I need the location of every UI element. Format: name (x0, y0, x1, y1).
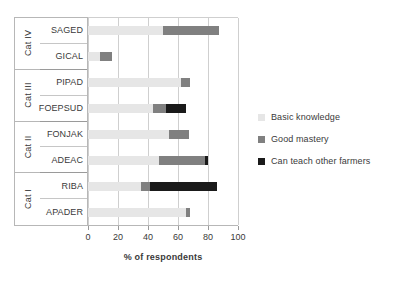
legend-item: Basic knowledge (258, 112, 398, 122)
x-axis-tick (148, 226, 149, 230)
bar-segment[interactable] (186, 208, 191, 217)
category-group-cell: Cat III (15, 70, 40, 122)
x-axis-tick-label: 40 (143, 232, 153, 242)
bar-segment[interactable] (163, 26, 219, 35)
x-axis-tick (238, 226, 239, 230)
bar-row (88, 173, 238, 199)
bar-segment[interactable] (150, 182, 218, 191)
bar-segment[interactable] (88, 156, 159, 165)
bar-segment[interactable] (88, 52, 100, 61)
legend-swatch-icon (258, 114, 265, 121)
bar-segment[interactable] (100, 52, 112, 61)
bar-row (88, 70, 238, 96)
axis-tick-label: PIPAD (40, 70, 87, 96)
bar-segment[interactable] (205, 156, 208, 165)
stacked-bar[interactable] (88, 78, 190, 87)
stacked-bar[interactable] (88, 52, 112, 61)
legend-item: Can teach other farmers (258, 156, 398, 166)
legend-label: Can teach other farmers (271, 156, 370, 166)
plot-area (88, 17, 238, 226)
x-axis-tick-label: 80 (203, 232, 213, 242)
stacked-bar[interactable] (88, 26, 219, 35)
category-group-label: Cat III (23, 82, 33, 107)
bar-segment[interactable] (166, 104, 186, 113)
stacked-bar[interactable] (88, 208, 190, 217)
bar-segment[interactable] (88, 78, 181, 87)
bar-chart: Cat IV Cat III Cat II Cat I SAGED GICAL … (0, 0, 403, 282)
legend-item: Good mastery (258, 134, 398, 144)
bar-row (88, 96, 238, 122)
x-axis-title: % of respondents (88, 252, 238, 262)
bar-segment[interactable] (88, 130, 169, 139)
axis-tick-label: RIBA (40, 173, 87, 199)
axis-tick-label: FONJAK (40, 122, 87, 148)
category-group-cell: Cat IV (15, 18, 40, 70)
axis-tick-label: GICAL (40, 44, 87, 70)
bar-segment[interactable] (159, 156, 206, 165)
bar-segment[interactable] (141, 182, 150, 191)
category-group-cell: Cat I (15, 173, 40, 225)
bar-segment[interactable] (88, 104, 153, 113)
stacked-bar[interactable] (88, 104, 186, 113)
category-group-label: Cat IV (23, 30, 33, 56)
x-axis-tick-label: 0 (85, 232, 90, 242)
axis-tick-label: FOEPSUD (40, 96, 87, 122)
bar-segment[interactable] (88, 208, 186, 217)
legend-swatch-icon (258, 158, 265, 165)
x-axis-tick (178, 226, 179, 230)
category-axis: Cat IV Cat III Cat II Cat I (14, 17, 40, 226)
bar-segment[interactable] (169, 130, 189, 139)
bar-segment[interactable] (181, 78, 190, 87)
stacked-bar[interactable] (88, 156, 208, 165)
series-name-axis: SAGED GICAL PIPAD FOEPSUD FONJAK ADEAC R… (40, 17, 88, 226)
axis-tick-label: ADEAC (40, 147, 87, 173)
category-group-cell: Cat II (15, 122, 40, 174)
bar-segment[interactable] (88, 26, 163, 35)
bar-segment[interactable] (153, 104, 167, 113)
legend-label: Basic knowledge (271, 112, 340, 122)
bar-row (88, 199, 238, 225)
legend-swatch-icon (258, 136, 265, 143)
x-axis-tick-label: 20 (113, 232, 123, 242)
bar-row (88, 44, 238, 70)
bar-segment[interactable] (88, 182, 141, 191)
axis-tick-label: APADER (40, 199, 87, 225)
bar-row (88, 18, 238, 44)
stacked-bar[interactable] (88, 182, 217, 191)
x-axis-tick (88, 226, 89, 230)
bar-row (88, 122, 238, 148)
gridline (238, 18, 239, 225)
legend-label: Good mastery (271, 134, 329, 144)
axis-tick-label: SAGED (40, 18, 87, 44)
category-group-label: Cat II (23, 136, 33, 159)
category-group-label: Cat I (23, 189, 33, 209)
x-axis-labels: 020406080100 (88, 232, 238, 246)
bar-row (88, 147, 238, 173)
stacked-bar[interactable] (88, 130, 189, 139)
x-axis-tick-label: 100 (230, 232, 245, 242)
x-axis-tick-label: 60 (173, 232, 183, 242)
x-axis-tick (118, 226, 119, 230)
x-axis-tick (208, 226, 209, 230)
legend: Basic knowledge Good mastery Can teach o… (258, 112, 398, 178)
